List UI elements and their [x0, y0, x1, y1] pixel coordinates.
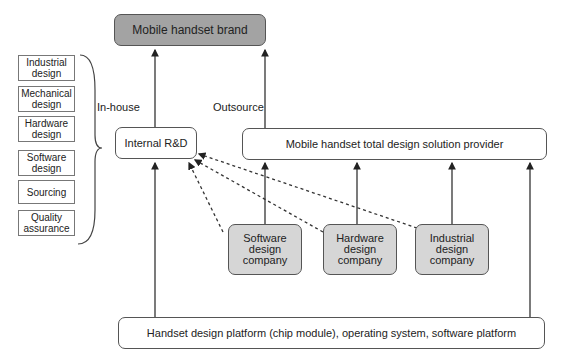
function-line: Software	[27, 152, 66, 163]
software-company-box: Software design company	[228, 224, 302, 275]
internal-rd-box: Internal R&D	[115, 127, 197, 159]
function-line: Quality	[31, 212, 62, 223]
function-sourcing: Sourcing	[18, 180, 75, 204]
function-line: design	[32, 163, 61, 174]
in-house-label: In-house	[97, 101, 140, 113]
function-line: design	[32, 99, 61, 110]
brand-label: Mobile handset brand	[132, 25, 247, 36]
company-line: company	[430, 255, 475, 266]
function-hardware-design: Hardware design	[18, 116, 75, 142]
function-line: Sourcing	[27, 187, 66, 198]
solution-provider-box: Mobile handset total design solution pro…	[242, 128, 547, 160]
function-quality-assurance: Quality assurance	[18, 210, 75, 236]
function-industrial-design: Industrial design	[18, 55, 75, 81]
brace-icon	[78, 55, 102, 244]
hardware-company-box: Hardware design company	[323, 224, 397, 275]
function-software-design: Software design	[18, 150, 75, 176]
function-line: Hardware	[25, 118, 68, 129]
industrial-company-box: Industrial design company	[415, 224, 489, 275]
function-line: Industrial	[26, 57, 67, 68]
company-line: company	[338, 255, 383, 266]
internal-rd-label: Internal R&D	[125, 138, 188, 149]
mobile-handset-brand-box: Mobile handset brand	[114, 14, 266, 46]
platform-label: Handset design platform (chip module), o…	[147, 328, 516, 339]
function-line: assurance	[23, 223, 69, 234]
function-line: design	[32, 68, 61, 79]
outsource-label: Outsource	[213, 101, 264, 113]
function-line: design	[32, 129, 61, 140]
platform-box: Handset design platform (chip module), o…	[118, 317, 545, 349]
solution-provider-label: Mobile handset total design solution pro…	[286, 139, 504, 150]
function-line: Mechanical	[21, 88, 72, 99]
function-mechanical-design: Mechanical design	[18, 86, 75, 112]
company-line: company	[243, 255, 288, 266]
